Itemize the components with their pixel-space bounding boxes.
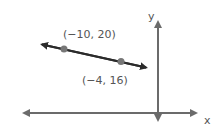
point-2-label: (−4, 16) [82, 74, 128, 87]
point-1-label: (−10, 20) [63, 28, 116, 41]
line [42, 45, 146, 68]
point-1 [61, 46, 68, 53]
point-2 [118, 58, 125, 65]
x-axis-label: x [204, 114, 211, 127]
y-axis-label: y [148, 10, 155, 23]
coordinate-plane: x y (−10, 20) (−4, 16) [0, 0, 220, 133]
